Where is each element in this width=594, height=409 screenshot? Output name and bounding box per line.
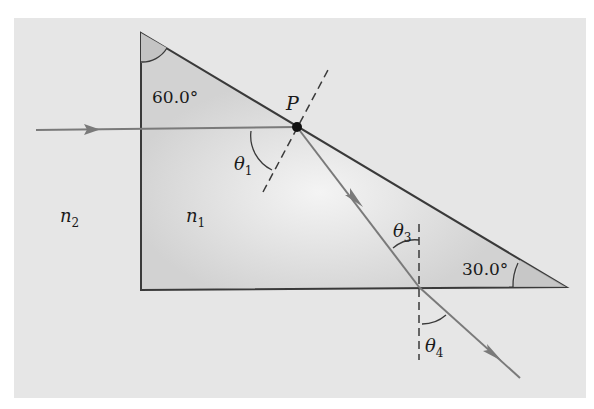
right-angle-label: 30.0° [462, 259, 508, 279]
prism-diagram: 60.0° 30.0° P θ1 θ3 θ4 n1 n2 [0, 0, 594, 409]
top-angle-label: 60.0° [152, 87, 198, 107]
point-p [292, 122, 302, 132]
point-p-label: P [285, 92, 300, 114]
